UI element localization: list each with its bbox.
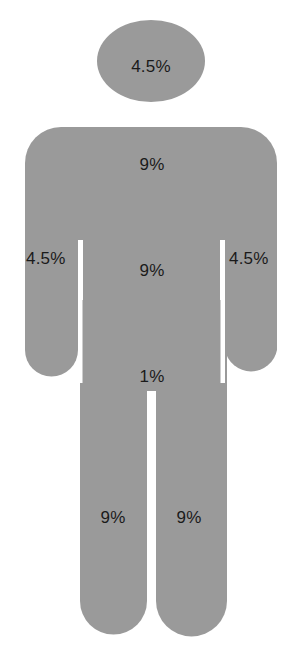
right-leg-percentage-label: 9% bbox=[177, 509, 202, 526]
left-leg-percentage-label: 9% bbox=[101, 509, 126, 526]
groin-percentage-label: 1% bbox=[140, 368, 165, 385]
right-arm-gap bbox=[221, 243, 226, 383]
head-percentage-label: 4.5% bbox=[131, 58, 171, 75]
leg-gap bbox=[147, 391, 156, 606]
upper-torso-percentage-label: 9% bbox=[140, 156, 165, 173]
lower-torso-percentage-label: 9% bbox=[140, 262, 165, 279]
body-diagram: 4.5% 9% 9% 4.5% 4.5% 1% 9% 9% bbox=[0, 0, 303, 653]
left-arm-gap bbox=[78, 243, 83, 383]
human-body-silhouette bbox=[0, 0, 303, 653]
right-arm-percentage-label: 4.5% bbox=[229, 250, 269, 267]
shoulders-region bbox=[25, 127, 277, 240]
left-arm-percentage-label: 4.5% bbox=[26, 250, 66, 267]
